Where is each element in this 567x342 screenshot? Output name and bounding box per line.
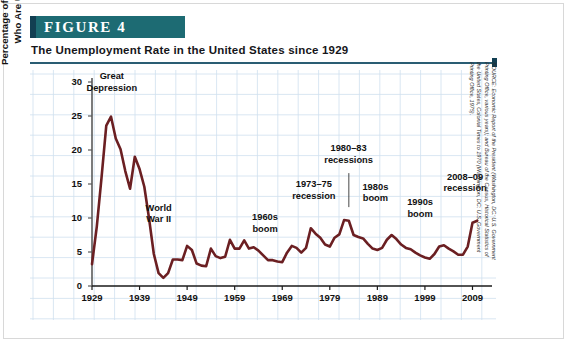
y-axis-title-line2: Who Are Unemployed	[11, 0, 24, 78]
title-rule	[30, 62, 496, 64]
annotation-1960s-boom: 1960sboom	[252, 212, 278, 235]
figure-title: The Unemployment Rate in the United Stat…	[31, 44, 348, 56]
annotation-line-1: 1960s	[252, 212, 278, 224]
annotation-1980s-boom: 1980sboom	[362, 182, 388, 205]
chart-plot	[30, 70, 496, 320]
source-line-3: the United States, Colonial Times to 197…	[475, 62, 482, 320]
x-tick-label: 1929	[70, 292, 114, 303]
x-tick-label: 1999	[403, 292, 447, 303]
annotation-line-2: boom	[362, 193, 388, 205]
source-line-2: Printing Office, various years); and Bur…	[482, 62, 489, 320]
annotation-line-1: 1980s	[362, 182, 388, 194]
x-tick-label: 1939	[118, 292, 162, 303]
x-tick-label: 1969	[260, 292, 304, 303]
annotation-line-1: 1980–83	[324, 143, 373, 155]
annotation-line-2: War II	[146, 214, 172, 226]
annotation-line-2: recession	[292, 191, 335, 203]
y-tick-label: 10	[60, 212, 82, 223]
y-tick-label: 30	[60, 76, 82, 87]
figure-banner-cap	[30, 16, 36, 38]
y-tick-label: 5	[60, 246, 82, 257]
figure-container: FIGURE 4 The Unemployment Rate in the Un…	[0, 0, 567, 342]
annotation-1990s-boom: 1990sboom	[407, 197, 433, 220]
y-tick-label: 20	[60, 144, 82, 155]
chart-panel: 0510152025301929193919491959196919791989…	[30, 70, 496, 320]
x-tick-label: 1979	[308, 292, 352, 303]
annotation-line-2: boom	[407, 209, 433, 221]
x-tick-label: 1949	[165, 292, 209, 303]
annotation-great-depression: GreatDepression	[86, 71, 137, 94]
annotation-line-2: boom	[252, 224, 278, 236]
x-tick-label: 1989	[355, 292, 399, 303]
annotation-1980-83-recessions: 1980–83recessions	[324, 143, 373, 166]
source-note: SOURCE: Economic Report of the President…	[467, 62, 497, 320]
source-line-1: SOURCE: Economic Report of the President…	[490, 62, 497, 320]
x-tick-label: 1959	[213, 292, 257, 303]
annotation-line-1: World	[146, 203, 172, 215]
y-axis-title: Percentage of Civilian Workers Who Are U…	[0, 0, 24, 78]
figure-number-banner: FIGURE 4	[30, 16, 185, 38]
annotation-world-war-ii: WorldWar II	[146, 203, 172, 226]
annotation-line-1: 1990s	[407, 197, 433, 209]
annotation-line-1: Great	[86, 71, 137, 83]
y-tick-label: 15	[60, 178, 82, 189]
annotation-line-1: 1973–75	[292, 179, 335, 191]
source-line-4: Printing Office, 1975).	[467, 62, 474, 320]
annotation-line-2: Depression	[86, 83, 137, 95]
y-tick-label: 25	[60, 110, 82, 121]
y-tick-label: 0	[60, 280, 82, 291]
y-axis-title-line1: Percentage of Civilian Workers	[0, 0, 11, 78]
annotation-line-2: recessions	[324, 155, 373, 167]
figure-number-label: FIGURE 4	[30, 19, 126, 36]
annotation-1973-75-recession: 1973–75recession	[292, 179, 335, 202]
